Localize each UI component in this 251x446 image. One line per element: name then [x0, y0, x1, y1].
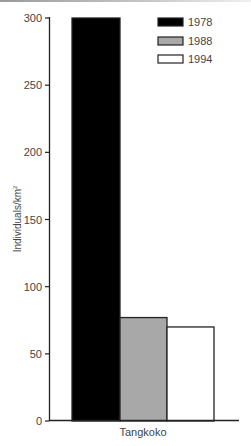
category-label: Tangkoko	[119, 426, 166, 438]
y-tick-label: 50	[30, 348, 42, 360]
bar-chart: 050100150200250300 Individuals/km2 Tangk…	[0, 0, 251, 446]
legend-label-1988: 1988	[188, 35, 212, 47]
y-tick-label: 0	[36, 415, 42, 427]
y-axis-title: Individuals/km2	[12, 185, 23, 252]
legend-label-1978: 1978	[188, 16, 212, 28]
legend-swatch-1978	[158, 18, 183, 26]
bars-group	[72, 18, 214, 421]
legend-swatch-1994	[158, 55, 183, 63]
bar-1978	[72, 18, 120, 421]
legend-label-1994: 1994	[188, 53, 212, 65]
bar-1988	[120, 318, 167, 421]
y-tick-label: 200	[24, 146, 42, 158]
legend: 197819881994	[158, 16, 212, 65]
legend-swatch-1988	[158, 37, 183, 45]
y-tick-label: 250	[24, 79, 42, 91]
y-ticks-group: 050100150200250300	[24, 12, 50, 427]
y-tick-label: 150	[24, 214, 42, 226]
bar-1994	[167, 327, 214, 421]
y-tick-label: 300	[24, 12, 42, 24]
y-tick-label: 100	[24, 281, 42, 293]
